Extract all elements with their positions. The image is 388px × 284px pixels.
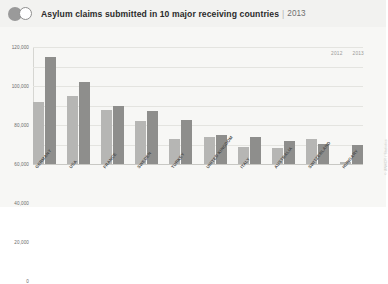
circle-outline — [19, 7, 32, 20]
title-year: 2013 — [287, 9, 305, 18]
bar-group — [169, 47, 192, 164]
bar-group — [340, 47, 363, 164]
chart-area: 2012 2013 020,00040,00060,00080,000100,0… — [0, 27, 386, 207]
plot-area: 020,00040,00060,00080,000100,000120,000 — [33, 47, 363, 164]
y-axis-tick-label: 100,000 — [12, 84, 29, 89]
bar-group — [238, 47, 261, 164]
bar-2013[interactable] — [45, 57, 56, 164]
two-circles-icon — [8, 7, 36, 21]
x-axis-labels: GERMANYUSAFRANCESWEDENTURKEYUNITED KINGD… — [33, 166, 363, 206]
x-axis-label: ITALY — [238, 166, 261, 206]
bar-series-container — [33, 47, 363, 164]
x-axis-label: SWEDEN — [135, 166, 158, 206]
y-axis-tick-label: 120,000 — [12, 45, 29, 50]
x-axis-label: HUNGARY — [340, 166, 363, 206]
x-axis-label: TURKEY — [169, 166, 192, 206]
y-axis-tick-label: 40,000 — [14, 201, 29, 206]
x-axis-label: SWITZERLAND — [306, 166, 329, 206]
chart-credit: © UNHCR / Statistics — [384, 139, 388, 175]
chart-header: Asylum claims submitted in 10 major rece… — [0, 0, 386, 28]
bar-group — [101, 47, 124, 164]
bar-2013[interactable] — [79, 82, 90, 164]
y-axis-tick-label: 80,000 — [14, 123, 29, 128]
y-axis-tick-label: 60,000 — [14, 162, 29, 167]
title-separator: | — [282, 9, 284, 19]
x-axis-label: USA — [67, 166, 90, 206]
x-axis-label: AUSTRALIA — [272, 166, 295, 206]
bar-group — [135, 47, 158, 164]
y-axis-tick-label: 20,000 — [14, 240, 29, 245]
bar-group — [67, 47, 90, 164]
bar-2012[interactable] — [67, 96, 78, 164]
x-axis-label: FRANCE — [101, 166, 124, 206]
x-axis-label: GERMANY — [33, 166, 56, 206]
y-axis-tick-label: 0 — [26, 279, 29, 284]
bar-group — [33, 47, 56, 164]
x-axis-label: UNITED KINGDOM — [204, 166, 227, 206]
page-title: Asylum claims submitted in 10 major rece… — [41, 9, 279, 19]
